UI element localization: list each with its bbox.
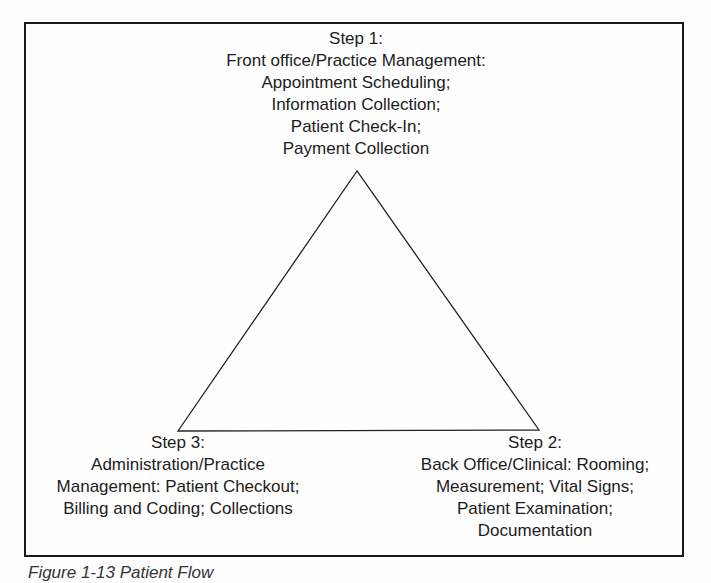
figure-caption: Figure 1-13 Patient Flow	[28, 563, 213, 583]
step-3-line: Billing and Coding; Collections	[28, 498, 328, 520]
step-3-label: Step 3: Administration/Practice Manageme…	[28, 432, 328, 520]
step-1-label: Step 1: Front office/Practice Management…	[156, 28, 556, 160]
step-2-title: Step 2:	[380, 432, 690, 454]
step-1-line: Patient Check-In;	[156, 116, 556, 138]
step-1-line: Front office/Practice Management:	[156, 50, 556, 72]
step-1-line: Appointment Scheduling;	[156, 72, 556, 94]
step-2-line: Back Office/Clinical: Rooming;	[380, 454, 690, 476]
step-1-line: Payment Collection	[156, 138, 556, 160]
step-2-label: Step 2: Back Office/Clinical: Rooming; M…	[380, 432, 690, 542]
step-1-line: Information Collection;	[156, 94, 556, 116]
step-2-line: Documentation	[380, 520, 690, 542]
step-3-line: Administration/Practice	[28, 454, 328, 476]
step-2-line: Patient Examination;	[380, 498, 690, 520]
step-2-line: Measurement; Vital Signs;	[380, 476, 690, 498]
step-3-title: Step 3:	[28, 432, 328, 454]
step-1-title: Step 1:	[156, 28, 556, 50]
step-3-line: Management: Patient Checkout;	[28, 476, 328, 498]
